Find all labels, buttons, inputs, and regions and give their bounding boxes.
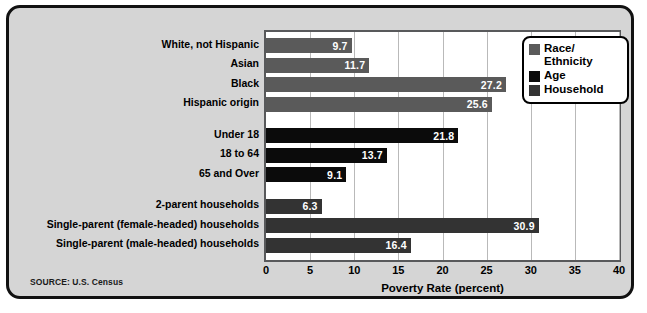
category-label: Hispanic origin [14,96,264,108]
x-tick-label: 40 [613,264,625,276]
legend-swatch-icon [529,85,540,96]
category-label: Asian [14,57,264,69]
chart-legend: Race/EthnicityAgeHousehold [522,36,629,104]
bar-value-label: 16.4 [385,239,406,251]
chart-frame: 9.711.727.225.621.813.79.16.330.916.4 Wh… [6,5,634,299]
bar-value-label: 30.9 [513,220,534,232]
bar-row: 13.7 [266,148,619,163]
bar-row: 30.9 [266,218,619,233]
bar [266,77,506,92]
x-tick-label: 5 [307,264,313,276]
legend-item: Race/Ethnicity [529,42,622,68]
bar-value-label: 25.6 [467,98,488,110]
legend-item: Age [529,69,622,82]
category-label: 65 and Over [14,167,264,179]
source-note: SOURCE: U.S. Census [30,277,123,287]
bar-row: 21.8 [266,128,619,143]
x-tick-label: 15 [392,264,404,276]
x-tick-label: 10 [348,264,360,276]
bar-value-label: 9.1 [327,169,342,181]
bar-value-label: 21.8 [433,130,454,142]
bar [266,97,492,112]
x-tick-label: 30 [525,264,537,276]
category-label: Single-parent (male-headed) households [14,237,264,249]
x-tick-label: 20 [436,264,448,276]
legend-swatch-icon [529,44,540,55]
bar-value-label: 11.7 [345,59,366,71]
bar-row: 16.4 [266,238,619,253]
category-label: White, not Hispanic [14,38,264,50]
legend-label: Age [544,69,566,82]
bar-value-label: 27.2 [481,79,502,91]
x-tick-label: 25 [481,264,493,276]
poverty-rate-bar-chart: 9.711.727.225.621.813.79.16.330.916.4 Wh… [0,0,647,313]
legend-label: Race/Ethnicity [544,42,593,68]
bar [266,218,539,233]
bar-row: 6.3 [266,199,619,214]
bar-value-label: 6.3 [302,200,317,212]
category-label: Single-parent (female-headed) households [14,218,264,230]
x-tick-label: 35 [569,264,581,276]
bar [266,128,458,143]
legend-swatch-icon [529,71,540,82]
category-label: Black [14,77,264,89]
x-tick-label: 0 [263,264,269,276]
legend-label: Household [544,83,603,96]
category-label: Under 18 [14,128,264,140]
bar-value-label: 13.7 [362,149,383,161]
x-axis-label: Poverty Rate (percent) [264,282,621,294]
category-labels: White, not HispanicAsianBlackHispanic or… [9,30,264,262]
category-label: 18 to 64 [14,147,264,159]
bar-value-label: 9.7 [332,40,347,52]
bar-row: 9.1 [266,167,619,182]
x-axis-ticks: 0510152025303540 [264,264,621,282]
category-label: 2-parent households [14,198,264,210]
legend-item: Household [529,83,622,96]
